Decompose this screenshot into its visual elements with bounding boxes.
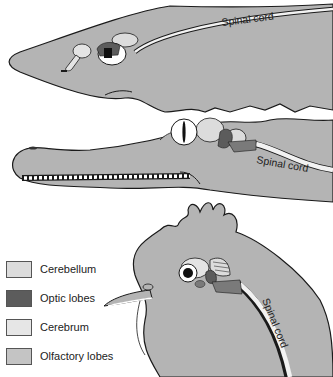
cerebrum-swatch	[6, 319, 32, 336]
legend-label: Optic lobes	[40, 292, 95, 304]
olfactory-lobes-swatch	[6, 348, 32, 365]
legend-label: Cerebellum	[40, 263, 96, 275]
chicken-head	[104, 203, 333, 377]
shark-head	[9, 4, 333, 112]
optic-lobes-swatch	[6, 290, 32, 307]
legend-label: Cerebrum	[40, 321, 89, 333]
legend-item-cerebrum: Cerebrum	[6, 316, 89, 338]
cerebellum-swatch	[6, 261, 32, 278]
legend-item-optic-lobes: Optic lobes	[6, 287, 95, 309]
legend-item-cerebellum: Cerebellum	[6, 258, 96, 280]
legend-item-olfactory-lobes: Olfactory lobes	[6, 345, 113, 367]
legend-label: Olfactory lobes	[40, 350, 113, 362]
